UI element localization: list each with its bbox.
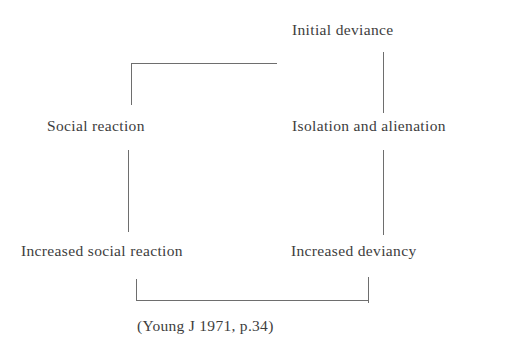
diagram-canvas: Initial deviance Social reaction Isolati… (0, 0, 513, 363)
connector-increased-deviancy-to-increased-social-reaction (136, 300, 369, 301)
citation-text: (Young J 1971, p.34) (137, 318, 274, 334)
connector-bottom-right-elbow (368, 277, 369, 303)
connector-isolation-to-increased-deviancy (383, 150, 384, 235)
connector-social-reaction-to-initial-deviance (131, 63, 277, 64)
connector-top-left-elbow (131, 63, 132, 105)
connector-initial-deviance-to-isolation (383, 52, 384, 113)
node-increased-social-reaction: Increased social reaction (21, 243, 183, 259)
node-isolation-and-alienation: Isolation and alienation (292, 118, 446, 134)
node-increased-deviancy: Increased deviancy (291, 243, 417, 259)
connector-bottom-left-elbow (136, 279, 137, 301)
node-social-reaction: Social reaction (47, 118, 145, 134)
node-initial-deviance: Initial deviance (292, 22, 394, 38)
connector-social-reaction-to-increased-social-reaction (128, 150, 129, 232)
